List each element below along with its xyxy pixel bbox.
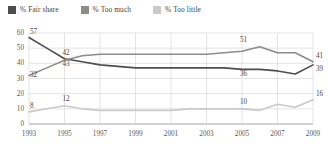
x-axis-tick-label: 1993 (13, 130, 45, 138)
y-axis-tick-label: 30 (0, 75, 24, 83)
data-point-label: 36 (240, 70, 247, 78)
y-axis-tick-label: 0 (0, 120, 24, 128)
y-axis-tick-label: 50 (0, 44, 24, 52)
y-axis-tick-label: 10 (0, 105, 24, 113)
y-axis-tick-label: 20 (0, 90, 24, 98)
data-point-label: 51 (240, 36, 247, 44)
x-axis-tick-label: 2005 (226, 130, 258, 138)
x-axis-tick-label: 2007 (262, 130, 294, 138)
data-point-label: 16 (316, 90, 323, 98)
data-point-label: 41 (316, 52, 323, 60)
data-point-label: 32 (30, 71, 37, 79)
x-axis-tick-label: 1995 (49, 130, 81, 138)
data-point-label: 12 (63, 95, 70, 103)
data-point-label: 57 (30, 28, 37, 36)
y-axis-tick-label: 60 (0, 29, 24, 37)
y-axis-tick-label: 40 (0, 59, 24, 67)
x-axis-tick-label: 1997 (84, 130, 116, 138)
x-axis-tick-label: 2003 (191, 130, 223, 138)
data-point-label: 39 (316, 65, 323, 73)
x-axis-tick-label: 2009 (297, 130, 328, 138)
data-point-label: 42 (63, 49, 70, 57)
data-point-label: 8 (30, 102, 34, 110)
data-point-label: 10 (240, 98, 247, 106)
x-axis-tick-label: 2001 (155, 130, 187, 138)
data-point-label: 43 (63, 60, 70, 68)
x-axis-tick-label: 1999 (120, 130, 152, 138)
